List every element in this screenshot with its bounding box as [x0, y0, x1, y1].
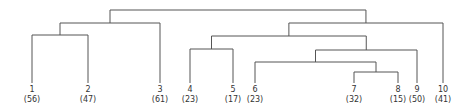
leaf-count-6: (23): [247, 95, 263, 104]
dendrogram: 1(56)2(47)3(61)4(23)5(17)6(23)7(32)8(15)…: [0, 0, 476, 108]
leaf-count-3: (61): [152, 95, 168, 104]
leaf-label-8: 8: [395, 85, 400, 94]
leaf-count-7: (32): [346, 95, 362, 104]
leaf-label-5: 5: [230, 85, 235, 94]
leaf-count-8: (15): [390, 95, 406, 104]
leaf-count-5: (17): [225, 95, 241, 104]
leaf-label-1: 1: [29, 85, 34, 94]
leaf-count-10: (41): [435, 95, 451, 104]
leaf-count-9: (50): [409, 95, 425, 104]
leaf-count-2: (47): [80, 95, 96, 104]
leaf-label-4: 4: [187, 85, 192, 94]
leaf-label-10: 10: [438, 85, 448, 94]
leaf-label-3: 3: [157, 85, 162, 94]
leaf-label-9: 9: [414, 85, 419, 94]
leaf-count-1: (56): [24, 95, 40, 104]
leaf-label-2: 2: [85, 85, 90, 94]
leaf-label-6: 6: [252, 85, 257, 94]
leaf-count-4: (23): [182, 95, 198, 104]
leaf-label-7: 7: [351, 85, 356, 94]
